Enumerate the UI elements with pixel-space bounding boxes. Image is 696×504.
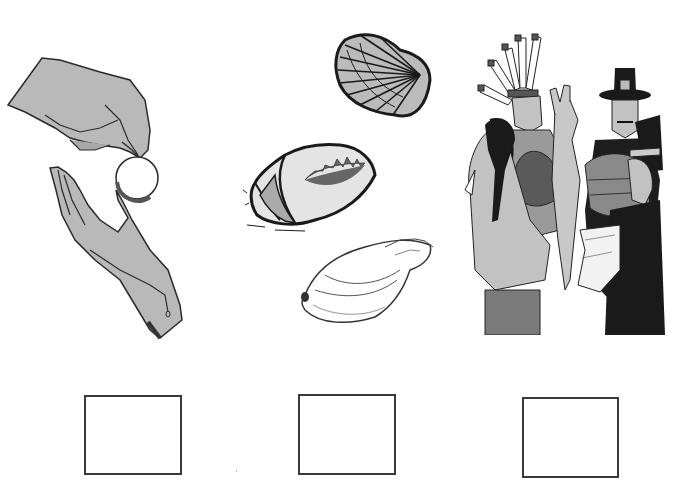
- hand-coin-illustration: hand passing a coin into an open palm: [0, 50, 200, 340]
- trading-scene-illustration: Native Americans and Pilgrims exchanging…: [460, 30, 665, 335]
- headdress-icon: [478, 34, 541, 105]
- seashells-icon: [235, 25, 445, 330]
- conch-shell-icon: [243, 144, 375, 231]
- hand-coin-icon: [0, 50, 200, 340]
- answer-box-1[interactable]: [84, 395, 182, 475]
- answer-box-3[interactable]: [522, 397, 619, 478]
- answer-box-2[interactable]: [298, 394, 396, 475]
- scallop-shell-icon: [336, 35, 430, 116]
- seashells-illustration: three seashells: scallop, conch, whelk: [235, 25, 445, 330]
- whelk-shell-icon: [301, 239, 433, 322]
- stray-mark: [236, 470, 237, 472]
- trading-scene-icon: [460, 30, 665, 335]
